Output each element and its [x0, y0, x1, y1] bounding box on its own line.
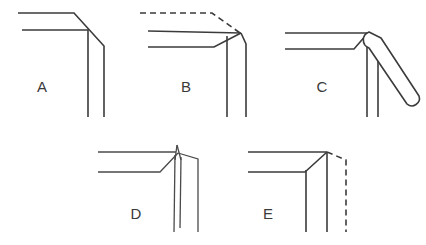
panel-e-group: E — [248, 152, 346, 232]
panel-c-flap-shape — [363, 32, 419, 106]
panel-d-vertical-left-path — [174, 155, 175, 232]
panel-b-upper-path — [148, 31, 241, 33]
panel-e-label: E — [263, 205, 273, 222]
panel-b-group: B — [140, 13, 246, 117]
panel-d-group: D — [98, 145, 198, 232]
panel-d-label: D — [131, 205, 142, 222]
panel-b-dashed-reference-path — [140, 13, 240, 33]
panel-b-label: B — [181, 78, 191, 95]
panel-e-lower-path — [248, 152, 327, 172]
panel-e-dashed-offset-path — [327, 152, 346, 232]
line-diagram-svg: A B — [0, 0, 426, 245]
panel-d-lower-path — [98, 153, 178, 172]
figure-canvas: A B — [0, 0, 426, 245]
panel-c-label: C — [317, 78, 328, 95]
panel-a-inner-path — [22, 30, 88, 117]
panel-a-outer-path — [18, 13, 104, 117]
panel-a-group: A — [18, 13, 104, 117]
panel-b-outer-vertical-path — [241, 33, 246, 117]
panel-c-lower-path — [285, 34, 367, 49]
panel-d-vertical-right-path — [180, 157, 181, 228]
panel-a-label: A — [37, 78, 47, 95]
panel-c-group: C — [285, 32, 419, 117]
